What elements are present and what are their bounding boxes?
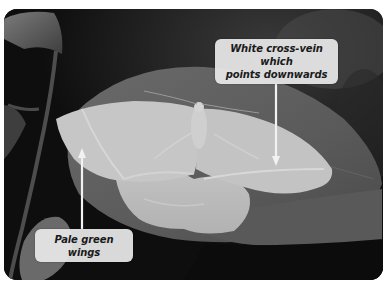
callout-wings-label: Pale green wings — [41, 233, 127, 259]
callout-cross-vein-line2: points downwards — [226, 69, 328, 80]
callout-cross-vein: White cross-vein which points downwards — [215, 39, 338, 84]
callout-wings: Pale green wings — [35, 229, 133, 262]
callout-cross-vein-line1: White cross-vein which — [230, 43, 323, 67]
